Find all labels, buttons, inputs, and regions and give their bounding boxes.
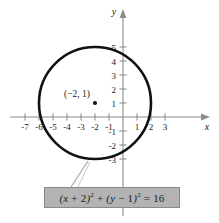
center-point-marker <box>93 101 97 105</box>
equation-callout-box: (x + 2)2 + (y − 1)2 = 16 <box>44 187 180 208</box>
y-tick-label-2: 2 <box>112 85 117 95</box>
x-tick-label-neg4: -4 <box>63 122 71 132</box>
eq-rhs-value: 16 <box>153 192 164 204</box>
y-tick-label-4: 4 <box>112 57 117 67</box>
callout-leader-line <box>71 161 90 187</box>
equation-callout-text: (x + 2)2 + (y − 1)2 = 16 <box>59 191 164 204</box>
x-axis-label: x <box>204 121 210 132</box>
circle-graph-figure: -7 -6 -5 -4 -3 -2 -1 1 2 3 5 4 3 2 1 -1 … <box>0 0 219 223</box>
x-tick-label-neg2: -2 <box>91 122 99 132</box>
y-axis <box>120 9 127 216</box>
x-tick-label-3: 3 <box>163 122 168 132</box>
y-tick-label-3: 3 <box>112 71 117 81</box>
y-axis-label: y <box>111 6 117 17</box>
eq-equals-sign: = <box>141 192 153 204</box>
eq-op-plus-inner: + <box>68 192 80 204</box>
x-tick-label-1: 1 <box>135 122 140 132</box>
eq-op-plus-outer: + <box>94 192 106 204</box>
x-tick-label-neg7: -7 <box>21 122 29 132</box>
y-tick-label-1: 1 <box>112 99 117 109</box>
x-tick-label-2: 2 <box>149 122 154 132</box>
x-tick-label-neg3: -3 <box>77 122 85 132</box>
y-tick-label-neg2: -2 <box>109 141 117 151</box>
eq-op-minus: − <box>115 192 127 204</box>
x-tick-label-neg5: -5 <box>49 122 57 132</box>
center-point-label: (−2, 1) <box>64 89 90 100</box>
y-tick-label-neg1: -1 <box>109 127 117 137</box>
